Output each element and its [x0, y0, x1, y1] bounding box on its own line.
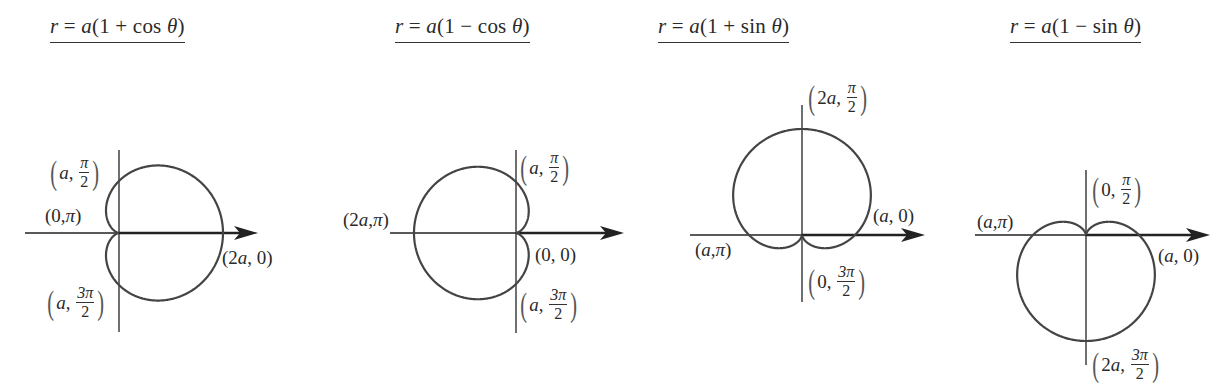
- label-2a-0: (2a, 0): [222, 248, 273, 267]
- fraction: 3π2: [549, 287, 567, 322]
- numerator: π: [847, 80, 857, 98]
- numerator: π: [549, 150, 559, 168]
- cardioid-figure-panel: r = a(1 + cos θ) r = a(1 − cos θ) r = a(…: [0, 0, 1222, 385]
- open-paren: (: [520, 288, 527, 322]
- var-theta: θ: [167, 14, 178, 38]
- label-a-0: (a, 0): [1158, 246, 1199, 265]
- label-a-3pi-over-2: (a, 3π2): [518, 287, 580, 322]
- close-paren: ): [1135, 173, 1142, 207]
- close-paren: ): [522, 14, 529, 38]
- var-theta: θ: [771, 14, 782, 38]
- coord-r: 2a,: [817, 88, 846, 107]
- label-2a-3pi-over-2: (2a, 3π2): [1090, 347, 1161, 382]
- coord-r: a,: [59, 163, 78, 182]
- label-2a-pi-over-2: (2a, π2): [806, 80, 869, 115]
- label-0-pi: (0, π): [45, 206, 81, 225]
- open-paren: (: [808, 81, 815, 115]
- cardioid-plots: [0, 0, 1222, 385]
- close-paren: ): [860, 81, 867, 115]
- fraction: 3π2: [76, 285, 94, 320]
- var-theta: θ: [512, 14, 523, 38]
- equation-title-3: r = a(1 + sin θ): [658, 14, 789, 43]
- label-a-pi: (a, π): [695, 240, 731, 259]
- fraction: π2: [549, 150, 559, 185]
- numerator: π: [1121, 172, 1131, 190]
- numerator: π: [79, 155, 89, 173]
- fraction: π2: [79, 155, 89, 190]
- coord-r: 2a,: [1101, 355, 1130, 374]
- open-paren: (: [1092, 348, 1099, 382]
- equation-title-1: r = a(1 + cos θ): [50, 14, 185, 43]
- expr: (1 − sin: [1052, 14, 1123, 38]
- var-a: a: [426, 14, 437, 38]
- var-a: a: [1041, 14, 1052, 38]
- label-a-pi: (a, π): [977, 212, 1013, 231]
- close-paren: ): [98, 286, 105, 320]
- close-paren: ): [563, 151, 570, 185]
- denominator: 2: [842, 282, 850, 299]
- denominator: 2: [554, 305, 562, 322]
- expr: (1 − cos: [437, 14, 512, 38]
- coord-r: 0,: [1101, 180, 1120, 199]
- fraction: π2: [1121, 172, 1131, 207]
- numerator: 3π: [76, 285, 94, 303]
- open-paren: (: [808, 265, 815, 299]
- coord-r: a,: [529, 158, 548, 177]
- equation-title-4: r = a(1 − sin θ): [1010, 14, 1141, 43]
- open-paren: (: [47, 286, 54, 320]
- open-paren: (: [50, 156, 57, 190]
- close-paren: ): [177, 14, 184, 38]
- label-a-3pi-over-2: (a, 3π2): [45, 285, 107, 320]
- equals: =: [58, 14, 81, 38]
- expr: (1 + sin: [700, 14, 771, 38]
- coord-r: 0,: [817, 272, 836, 291]
- fraction: π2: [847, 80, 857, 115]
- equals: =: [403, 14, 426, 38]
- equation-title-2: r = a(1 − cos θ): [395, 14, 530, 43]
- close-paren: ): [571, 288, 578, 322]
- numerator: 3π: [837, 264, 855, 282]
- denominator: 2: [81, 303, 89, 320]
- label-0-3pi-over-2: (0, 3π2): [806, 264, 868, 299]
- close-paren: ): [93, 156, 100, 190]
- fraction: 3π2: [1131, 347, 1149, 382]
- label-a-pi-over-2: (a, π2): [518, 150, 572, 185]
- close-paren: ): [859, 265, 866, 299]
- var-a: a: [689, 14, 700, 38]
- var-theta: θ: [1123, 14, 1134, 38]
- equals: =: [666, 14, 689, 38]
- close-paren: ): [1152, 348, 1159, 382]
- fraction: 3π2: [837, 264, 855, 299]
- label-a-0: (a, 0): [873, 206, 914, 225]
- coord-r: a,: [529, 295, 548, 314]
- label-0-0: (0, 0): [535, 245, 576, 264]
- numerator: 3π: [1131, 347, 1149, 365]
- coord-r: a,: [56, 293, 75, 312]
- denominator: 2: [1122, 190, 1130, 207]
- close-paren: ): [782, 14, 789, 38]
- equals: =: [1018, 14, 1041, 38]
- open-paren: (: [520, 151, 527, 185]
- open-paren: (: [1092, 173, 1099, 207]
- close-paren: ): [1134, 14, 1141, 38]
- denominator: 2: [1136, 365, 1144, 382]
- expr: (1 + cos: [92, 14, 167, 38]
- denominator: 2: [550, 168, 558, 185]
- numerator: 3π: [549, 287, 567, 305]
- label-2a-pi: (2a, π): [343, 210, 389, 229]
- label-a-pi-over-2: (a, π2): [48, 155, 102, 190]
- denominator: 2: [848, 98, 856, 115]
- var-a: a: [81, 14, 92, 38]
- denominator: 2: [80, 173, 88, 190]
- label-0-pi-over-2: (0, π2): [1090, 172, 1144, 207]
